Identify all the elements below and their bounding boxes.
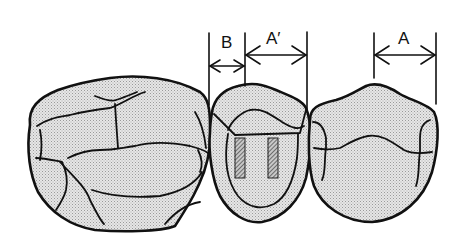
dental-diagram: B A′ A — [0, 0, 462, 244]
left-molar — [28, 77, 210, 232]
label-a: A — [398, 30, 409, 47]
prepared-premolar — [209, 84, 310, 222]
pin-channel-right — [268, 138, 278, 178]
pin-channel-left — [235, 138, 245, 178]
label-a-prime: A′ — [266, 30, 281, 47]
right-premolar — [309, 84, 438, 222]
label-b: B — [221, 34, 232, 51]
